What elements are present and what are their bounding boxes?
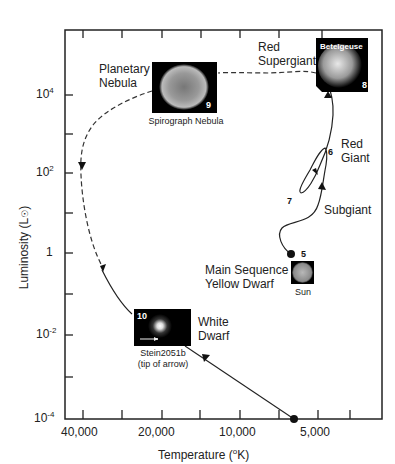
betelgeuse-caption: Betelgeuse <box>320 40 363 54</box>
main-sequence-point <box>287 250 295 258</box>
stage-number-6: 6 <box>328 147 333 157</box>
arrow-icon <box>78 162 86 170</box>
y-tick-1e2: 102 <box>36 164 54 179</box>
x-axis-ticks <box>83 410 350 419</box>
y-axis-title: Luminosity (L☉) <box>17 188 32 308</box>
label-sun: Sun <box>290 287 316 298</box>
x-tick-20000: 20,000 <box>138 425 175 439</box>
label-spirograph-nebula: Spirograph Nebula <box>143 116 229 127</box>
y-tick-1e4: 104 <box>36 86 54 101</box>
x-tick-10000: 10,000 <box>219 425 256 439</box>
y-tick-1e-4: 10-4 <box>34 410 54 425</box>
x-tick-40000: 40,000 <box>61 425 98 439</box>
white-dwarf-cooling-path <box>102 270 132 314</box>
label-main-sequence: Main SequenceYellow Dwarf <box>205 263 288 291</box>
y-tick-1e-2: 10-2 <box>36 326 56 341</box>
stage-number-9: 9 <box>206 100 211 110</box>
nebula-to-white-dwarf-path <box>81 91 152 266</box>
arrow-icon <box>318 182 326 190</box>
label-stein2051b: Stein2051b(tip of arrow) <box>128 348 198 370</box>
white-dwarf-end-point <box>290 415 298 423</box>
stage-number-5: 5 <box>301 249 306 259</box>
label-white-dwarf: WhiteDwarf <box>198 315 229 343</box>
arrow-icon <box>202 354 210 362</box>
main-sequence-to-giant-path <box>280 78 334 254</box>
hr-diagram-plot <box>0 0 395 464</box>
top-axis-ticks <box>83 30 322 38</box>
stage-number-10: 10 <box>137 311 147 321</box>
stage-number-7: 7 <box>287 196 292 206</box>
x-tick-5000: 5,000 <box>300 425 330 439</box>
label-red-supergiant: RedSupergiant <box>258 40 316 68</box>
white-dwarf-cooling-line <box>185 346 294 419</box>
label-red-giant: RedGiant <box>341 137 370 165</box>
x-axis-title: Temperature (oK) <box>158 445 249 462</box>
stage-number-8: 8 <box>362 80 367 90</box>
supergiant-to-nebula-path <box>218 71 316 73</box>
y-tick-1: 1 <box>46 245 53 259</box>
y-axis-ticks <box>65 95 73 377</box>
label-subgiant: Subgiant <box>324 203 371 217</box>
label-planetary-nebula: PlanetaryNebula <box>99 62 150 90</box>
